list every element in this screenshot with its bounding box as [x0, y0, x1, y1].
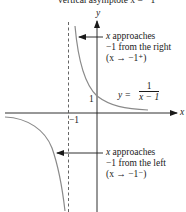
annotation-left-line3: (x → −1⁻)	[106, 169, 146, 180]
function-fraction: 1 x − 1	[139, 81, 159, 102]
function-label: y =	[118, 90, 131, 101]
tick-label-y1: 1	[89, 94, 94, 105]
graph-canvas	[0, 0, 186, 212]
annotation-right-line3: (x → −1⁺)	[106, 53, 146, 64]
curve-left-branch	[5, 117, 65, 211]
annotation-left-line1: approaches	[110, 147, 155, 157]
annotation-right-line1: approaches	[110, 31, 155, 41]
y-axis-label: y	[96, 8, 100, 19]
annotation-left-line2: −1 from the left	[106, 158, 166, 169]
fraction-denominator: x − 1	[139, 92, 159, 102]
fraction-numerator: 1	[147, 81, 152, 91]
tick-label-neg1: −1	[69, 115, 79, 126]
function-lhs: y =	[118, 90, 131, 100]
annotation-right-line2: −1 from the right	[106, 42, 171, 53]
x-axis-label: x	[180, 107, 184, 118]
